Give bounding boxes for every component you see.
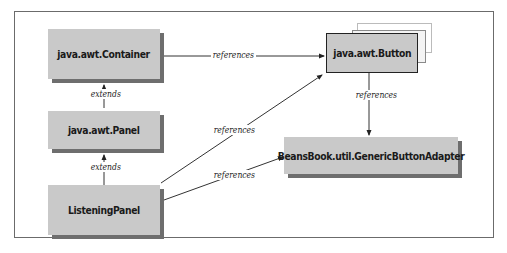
edge-label-extends: extends	[89, 162, 123, 172]
node-label: java.awt.Button	[333, 47, 411, 59]
node-label: java.awt.Panel	[68, 124, 140, 136]
edge-label-extends: extends	[89, 89, 123, 99]
node-listening-panel: ListeningPanel	[48, 185, 160, 235]
node-generic-button-adapter: BeansBook.util.GenericButtonAdapter	[284, 137, 458, 174]
node-java-awt-panel: java.awt.Panel	[48, 111, 160, 149]
node-label: java.awt.Container	[58, 48, 150, 60]
node-java-awt-container: java.awt.Container	[48, 29, 160, 79]
edge-label-references: references	[354, 90, 399, 100]
node-java-awt-button: java.awt.Button	[326, 33, 418, 73]
edge-label-references: references	[212, 125, 257, 135]
node-label: ListeningPanel	[68, 204, 140, 216]
edge-label-references: references	[212, 170, 257, 180]
node-label: BeansBook.util.GenericButtonAdapter	[278, 150, 465, 162]
edge-label-references: references	[211, 50, 256, 60]
